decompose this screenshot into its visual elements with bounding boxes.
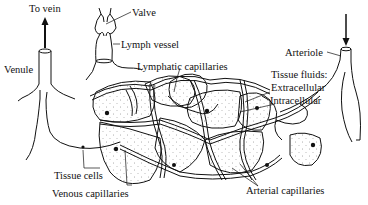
label-venule: Venule (4, 64, 33, 75)
label-intracellular: Intracellular (270, 95, 321, 106)
label-valve: Valve (132, 7, 156, 18)
label-arteriole: Arteriole (285, 47, 323, 58)
label-tissue-fluids: Tissue fluids: (271, 69, 328, 80)
label-to-vein: To vein (29, 3, 61, 14)
to-vein-arrow (42, 17, 49, 48)
arteriole-leader (327, 52, 341, 56)
label-lymph-vessel: Lymph vessel (121, 39, 179, 50)
label-venous-capillaries: Venous capillaries (52, 188, 129, 199)
label-tissue-cells: Tissue cells (54, 170, 103, 181)
label-extracellular: Extracellular (271, 82, 325, 93)
label-arterial-capillaries: Arterial capillaries (246, 185, 324, 196)
label-lymphatic-capillaries: Lymphatic capillaries (137, 61, 228, 72)
arteriole-arrow (343, 14, 350, 46)
